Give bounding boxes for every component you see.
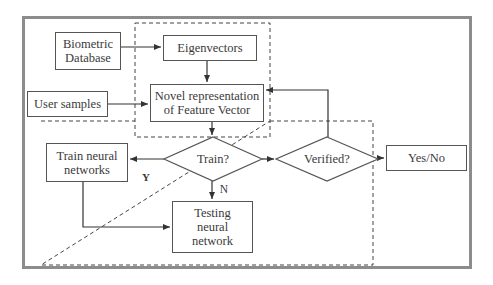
testing-neural-network-node: Testing neural network xyxy=(172,201,253,253)
verified-decision-label: Verified? xyxy=(292,152,362,166)
novel-representation-node: Novel representation of Feature Vector xyxy=(150,84,264,122)
testing-neural-network-line1: Testing xyxy=(192,206,233,220)
biometric-database-node: Biometric Database xyxy=(55,32,121,70)
novel-representation-line1: Novel representation xyxy=(155,89,259,103)
biometric-database-line1: Biometric xyxy=(63,37,113,51)
user-samples-node: User samples xyxy=(27,91,108,117)
user-samples-label: User samples xyxy=(34,97,101,111)
train-decision-label: Train? xyxy=(183,152,243,166)
no-edge-label: N xyxy=(218,182,230,196)
testing-neural-network-line2: neural xyxy=(192,220,233,234)
yes-no-label: Yes/No xyxy=(408,151,445,165)
train-neural-networks-line2: networks xyxy=(57,163,118,177)
novel-representation-line2: of Feature Vector xyxy=(155,103,259,117)
yes-edge-label: Y xyxy=(140,170,152,184)
biometric-database-line2: Database xyxy=(63,51,113,65)
train-neural-networks-node: Train neural networks xyxy=(46,143,128,182)
eigenvectors-label: Eigenvectors xyxy=(177,41,242,55)
train-neural-networks-line1: Train neural xyxy=(57,149,118,163)
yes-no-node: Yes/No xyxy=(386,145,467,171)
eigenvectors-node: Eigenvectors xyxy=(163,35,257,61)
testing-neural-network-line3: network xyxy=(192,234,233,248)
